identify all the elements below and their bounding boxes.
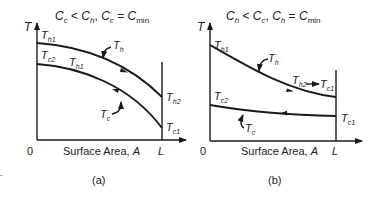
- panel-a-title: Cc < Ch, Cc = Cmin: [55, 9, 149, 25]
- flow-arrow-hot-b: [286, 89, 294, 93]
- hot-fluid-curve-a: [37, 43, 162, 97]
- label-tc2-b: Tc2: [214, 90, 228, 104]
- caption-a: (a): [92, 174, 105, 186]
- heat-exchanger-temperature-diagram: Cc < Ch, Cc = Cmin T Th1 Tc2 Th1 Th Tc T…: [0, 0, 372, 199]
- tc-pointer-b: [241, 115, 244, 128]
- stray-mark: -: [0, 171, 3, 178]
- end-label-b: L: [332, 145, 338, 157]
- tc-pointer-a: [112, 102, 121, 114]
- label-tc-curve-b: Tc: [245, 122, 256, 136]
- caption-b: (b): [268, 174, 281, 186]
- flow-arrow-cold-a: [112, 89, 119, 93]
- y-axis-label-a: T: [24, 20, 33, 34]
- th-pointer-a: [103, 47, 111, 58]
- label-th1-mid-a: Th1: [69, 56, 84, 70]
- th-pointer-b: [259, 59, 268, 71]
- end-label-a: L: [158, 145, 164, 157]
- cold-fluid-curve-b: [210, 105, 336, 116]
- flow-arrow-cold-b: [281, 111, 287, 116]
- label-th2-a: Th2: [166, 91, 181, 105]
- origin-label-a: 0: [27, 145, 33, 157]
- panel-a: Cc < Ch, Cc = Cmin T Th1 Tc2 Th1 Th Tc T…: [24, 9, 186, 186]
- origin-label-b: 0: [200, 145, 206, 157]
- label-th1-b: Th1: [214, 39, 229, 53]
- panel-b: Ch < Cc, Ch = Cmin T Th1 Th Th2 Tc1 Tc2 …: [197, 9, 362, 186]
- panel-b-title: Ch < Cc, Ch = Cmin: [226, 9, 321, 25]
- label-th-curve-b: Th: [268, 52, 279, 66]
- label-tc1-a: Tc1: [166, 121, 180, 135]
- label-tc-curve-a: Tc: [100, 108, 111, 122]
- label-th2-b: Th2: [292, 74, 307, 88]
- y-axis-label-b: T: [197, 20, 206, 34]
- x-axis-label-a: Surface Area, A: [63, 145, 140, 157]
- label-tc2-a: Tc2: [41, 49, 55, 63]
- label-tc1-target-b: Tc1: [320, 78, 334, 92]
- label-th-curve-a: Th: [113, 39, 124, 53]
- x-axis-label-b: Surface Area, A: [241, 145, 318, 157]
- label-tc1-b: Tc1: [341, 112, 355, 126]
- label-th1-top-a: Th1: [41, 29, 56, 43]
